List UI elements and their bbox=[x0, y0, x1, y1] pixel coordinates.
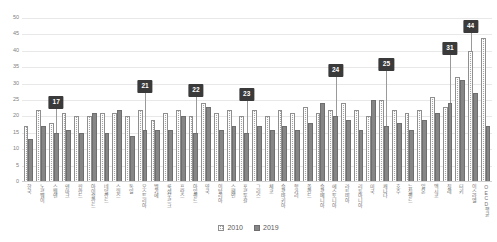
x-axis-tick-label: 스페인 bbox=[225, 183, 238, 225]
bar-2019[interactable] bbox=[308, 123, 313, 182]
x-axis-tick-label: 호주 bbox=[390, 183, 403, 225]
bar-2019[interactable] bbox=[181, 116, 186, 182]
y-axis-tick-label: 50 bbox=[13, 15, 19, 21]
bar-2019[interactable] bbox=[270, 130, 275, 182]
bar-2019[interactable] bbox=[155, 130, 160, 182]
x-axis-tick-label: 그리스 bbox=[251, 183, 264, 225]
bar-2019[interactable] bbox=[384, 126, 389, 182]
bar-2019[interactable] bbox=[105, 133, 110, 182]
x-axis-tick-text: 라트비아 bbox=[343, 184, 348, 203]
bar-group bbox=[151, 18, 161, 182]
x-axis-tick-label: 포르투갈 bbox=[238, 183, 251, 225]
x-axis-tick-text: 슬로베니아 bbox=[318, 184, 323, 208]
bar-2019[interactable] bbox=[397, 123, 402, 182]
bar-2019[interactable] bbox=[193, 133, 198, 182]
bar-2019[interactable] bbox=[448, 103, 453, 182]
x-axis-tick-text: 뉴질랜드 bbox=[407, 184, 412, 203]
x-axis-tick-label: 스웨덴 bbox=[47, 183, 60, 225]
x-axis-tick-text: OECD평균 bbox=[483, 184, 488, 216]
callout-leader-line bbox=[336, 75, 337, 116]
bar-2019[interactable] bbox=[486, 126, 491, 182]
bar-2019[interactable] bbox=[28, 139, 33, 182]
x-axis-tick-label: 덴마크 bbox=[60, 183, 73, 225]
x-axis-tick-label: 멕시코 bbox=[428, 183, 441, 225]
x-axis-tick-text: 네덜란드 bbox=[102, 184, 107, 203]
bar-2019[interactable] bbox=[41, 126, 46, 182]
bar-group bbox=[290, 18, 300, 182]
bar-2019[interactable] bbox=[79, 133, 84, 182]
bar-group bbox=[24, 18, 34, 182]
bar-2019[interactable] bbox=[409, 130, 414, 182]
x-axis-tick-text: 한국 bbox=[26, 184, 31, 193]
legend-item-2010[interactable]: 2010 bbox=[218, 224, 243, 231]
legend-label-2019: 2019 bbox=[263, 224, 279, 231]
chart-legend: 2010 2019 bbox=[0, 224, 497, 231]
bar-2019[interactable] bbox=[117, 110, 122, 182]
bar-2019[interactable] bbox=[219, 130, 224, 182]
x-axis-tick-text: 헝가리 bbox=[293, 184, 298, 198]
bar-group bbox=[163, 18, 173, 182]
data-label-callout: 22 bbox=[188, 84, 203, 97]
x-axis-tick-label: 이탈리아 bbox=[213, 183, 226, 225]
x-axis-tick-text: 이탈리아 bbox=[216, 184, 221, 203]
bar-2019[interactable] bbox=[143, 130, 148, 182]
x-axis-tick-label: 폴란드 bbox=[301, 183, 314, 225]
bar-2019[interactable] bbox=[460, 80, 465, 182]
x-axis-tick-label: 독일 bbox=[124, 183, 137, 225]
x-axis-tick-text: 프랑스 bbox=[178, 184, 183, 198]
bar-2019[interactable] bbox=[232, 126, 237, 182]
bar-group bbox=[214, 18, 224, 182]
callout-leader-line bbox=[386, 69, 387, 126]
bar-2019[interactable] bbox=[422, 120, 427, 182]
bar-2019[interactable] bbox=[333, 116, 338, 182]
data-label-callout: 25 bbox=[379, 58, 394, 71]
bar-2019[interactable] bbox=[206, 107, 211, 182]
callout-leader-line bbox=[471, 31, 472, 51]
bar-2019[interactable] bbox=[295, 130, 300, 182]
x-axis-tick-text: 덴마크 bbox=[64, 184, 69, 198]
y-axis-tick-label: 0 bbox=[16, 179, 19, 185]
data-label-callout: 23 bbox=[239, 88, 254, 101]
y-axis-tick-label: 40 bbox=[13, 48, 19, 54]
bar-2019[interactable] bbox=[473, 93, 478, 182]
x-axis-tick-text: 영국 bbox=[204, 184, 209, 193]
y-axis-tick-label: 30 bbox=[13, 81, 19, 87]
bar-2019[interactable] bbox=[435, 113, 440, 182]
bar-2019[interactable] bbox=[346, 120, 351, 182]
x-axis-tick-text: 독일 bbox=[127, 184, 132, 193]
bar-group bbox=[405, 18, 415, 182]
bar-2019[interactable] bbox=[359, 130, 364, 182]
legend-item-2019[interactable]: 2019 bbox=[254, 224, 279, 231]
callout-leader-line bbox=[145, 91, 146, 130]
x-axis-tick-label: 슬로베니아 bbox=[314, 183, 327, 225]
x-axis-tick-text: 미국 bbox=[369, 184, 374, 193]
bar-group bbox=[74, 18, 84, 182]
x-axis-tick-text: 스위스 bbox=[115, 184, 120, 198]
x-axis-tick-label: 라트비아 bbox=[340, 183, 353, 225]
x-axis-tick-text: 에스토니아 bbox=[331, 184, 336, 208]
bar-2019[interactable] bbox=[320, 103, 325, 182]
y-axis-tick-label: 25 bbox=[13, 97, 19, 103]
x-axis-tick-label: 슬로바키아 bbox=[276, 183, 289, 225]
bar-group bbox=[87, 18, 97, 182]
bar-group bbox=[36, 18, 46, 182]
bar-2019[interactable] bbox=[257, 126, 262, 182]
x-axis-tick-text: 그리스 bbox=[254, 184, 259, 198]
x-axis-tick-label: 스위스 bbox=[111, 183, 124, 225]
bar-2019[interactable] bbox=[282, 126, 287, 182]
x-axis-tick-text: 스페인 bbox=[229, 184, 234, 198]
x-axis-tick-text: 멕시코 bbox=[432, 184, 437, 198]
x-axis-tick-label: 칠레 bbox=[441, 183, 454, 225]
bar-2019[interactable] bbox=[66, 130, 71, 182]
callout-leader-line bbox=[56, 107, 57, 133]
bar-group bbox=[265, 18, 275, 182]
bar-group bbox=[392, 18, 402, 182]
bar-2019[interactable] bbox=[92, 113, 97, 182]
bar-2019[interactable] bbox=[168, 130, 173, 182]
bar-2019[interactable] bbox=[130, 136, 135, 182]
bar-2019[interactable] bbox=[54, 133, 59, 182]
x-axis-tick-text: 아일랜드 bbox=[191, 184, 196, 203]
bar-2019[interactable] bbox=[371, 100, 376, 182]
bar-2019[interactable] bbox=[244, 133, 249, 182]
x-axis-tick-text: 벨기에 bbox=[153, 184, 158, 198]
